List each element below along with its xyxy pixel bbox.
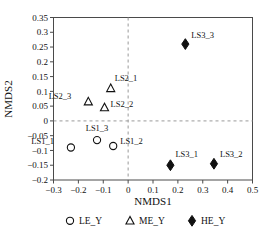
- legend: LE_YME_YHE_Y: [66, 215, 225, 226]
- legend-item-label: ME_Y: [139, 216, 165, 226]
- y-tick-label: 0.05: [32, 101, 48, 111]
- y-axis-title: NMDS2: [2, 80, 14, 117]
- y-tick-label: −0.15: [27, 160, 48, 170]
- data-point-label: LS2_3: [49, 91, 72, 101]
- data-point[interactable]: LS3_2: [210, 149, 242, 169]
- y-tick-label: 0.2: [37, 57, 48, 67]
- marker-circle-open-icon: [67, 144, 74, 151]
- x-tick-label: 0.1: [147, 185, 158, 195]
- data-point-label: LS3_1: [175, 149, 198, 159]
- nmds-plot: −0.3−0.2−0.100.10.20.30.40.5 0.350.30.25…: [0, 0, 266, 236]
- marker-circle-open-icon: [66, 217, 73, 224]
- x-tick-label: 0.2: [172, 185, 183, 195]
- data-points-group: LS1_1LS1_3LS1_2LS2_1LS2_3LS2_2LS3_3LS3_1…: [31, 30, 242, 171]
- marker-triangle-open-icon: [84, 97, 92, 105]
- marker-circle-open-icon: [93, 137, 100, 144]
- y-tick-label: −0.1: [32, 146, 48, 156]
- data-point[interactable]: LS2_1: [107, 73, 138, 91]
- nmds-scatter-figure: −0.3−0.2−0.100.10.20.30.40.5 0.350.30.25…: [0, 0, 266, 236]
- legend-item-label: LE_Y: [79, 216, 102, 226]
- marker-triangle-open-icon: [107, 84, 115, 92]
- y-tick-label: 0.3: [37, 27, 49, 37]
- legend-item-label: HE_Y: [201, 216, 225, 226]
- y-tick-label: −0.2: [32, 175, 48, 185]
- y-tick-label: 0.15: [32, 72, 48, 82]
- marker-diamond-filled-icon: [188, 215, 195, 226]
- x-axis-ticks: −0.3−0.2−0.100.10.20.30.40.5: [45, 180, 258, 195]
- data-point-label: LS1_1: [31, 136, 54, 146]
- data-point[interactable]: LS3_3: [182, 30, 214, 49]
- marker-circle-open-icon: [110, 142, 117, 149]
- y-tick-label: 0.35: [32, 13, 48, 23]
- x-tick-label: 0.4: [222, 185, 234, 195]
- marker-diamond-filled-icon: [210, 158, 217, 169]
- data-point-label: LS2_1: [115, 73, 138, 83]
- marker-diamond-filled-icon: [167, 160, 174, 171]
- data-point[interactable]: LS1_3: [86, 123, 109, 144]
- x-tick-label: 0.5: [247, 185, 259, 195]
- legend-item-me_y[interactable]: ME_Y: [126, 216, 165, 226]
- x-tick-label: 0: [126, 185, 131, 195]
- x-tick-label: −0.2: [70, 185, 86, 195]
- series-he_y: LS3_3LS3_1LS3_2: [167, 30, 243, 171]
- marker-triangle-open-icon: [100, 103, 108, 111]
- y-tick-label: 0: [44, 116, 49, 126]
- data-point[interactable]: LS1_2: [110, 136, 143, 150]
- legend-item-he_y[interactable]: HE_Y: [188, 215, 225, 226]
- series-me_y: LS2_1LS2_3LS2_2: [49, 73, 138, 110]
- x-tick-label: −0.1: [95, 185, 111, 195]
- marker-diamond-filled-icon: [182, 39, 189, 50]
- legend-item-le_y[interactable]: LE_Y: [66, 216, 102, 226]
- data-point-label: LS3_3: [191, 30, 214, 40]
- marker-triangle-open-icon: [126, 216, 134, 224]
- x-tick-label: −0.3: [45, 185, 62, 195]
- x-axis-title: NMDS1: [134, 195, 171, 207]
- data-point-label: LS1_3: [86, 123, 109, 133]
- y-tick-label: 0.1: [37, 87, 48, 97]
- data-point-label: LS3_2: [220, 149, 243, 159]
- y-tick-label: 0.25: [32, 42, 48, 52]
- data-point[interactable]: LS3_1: [167, 149, 198, 170]
- data-point-label: LS1_2: [120, 136, 143, 146]
- data-point[interactable]: LS2_3: [49, 91, 93, 105]
- x-tick-label: 0.3: [197, 185, 209, 195]
- data-point-label: LS2_2: [110, 99, 133, 109]
